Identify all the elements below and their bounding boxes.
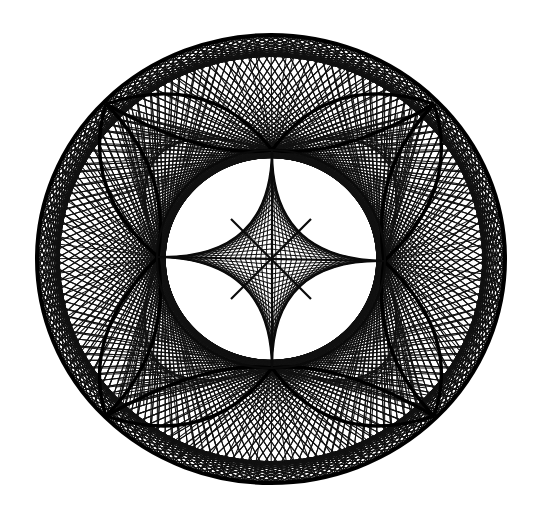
string-art-figure <box>0 0 540 512</box>
